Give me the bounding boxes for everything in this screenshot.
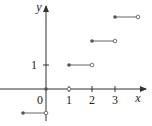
plot-area: 12310xy (0, 0, 152, 126)
x-tick-label: 3 (112, 93, 118, 107)
open-endpoint-dot (136, 15, 140, 19)
y-axis-label: y (35, 0, 42, 14)
closed-endpoint-dot (90, 39, 94, 43)
x-tick-label: 1 (66, 93, 72, 107)
closed-endpoint-dot (113, 15, 117, 19)
open-endpoint-dot (67, 87, 71, 91)
y-tick-label: 1 (31, 58, 37, 72)
axes (0, 6, 146, 121)
open-endpoint-dot (90, 63, 94, 67)
x-axis-label: x (134, 91, 141, 105)
open-endpoint-dot (44, 111, 48, 115)
open-endpoint-dot (113, 39, 117, 43)
origin-label: 0 (37, 93, 43, 107)
closed-endpoint-dot (21, 111, 25, 115)
axis-labels: 12310xy (31, 0, 141, 107)
step-function-graph: 12310xy (0, 0, 152, 126)
closed-endpoint-dot (44, 87, 48, 91)
x-tick-label: 2 (89, 93, 95, 107)
closed-endpoint-dot (67, 63, 71, 67)
